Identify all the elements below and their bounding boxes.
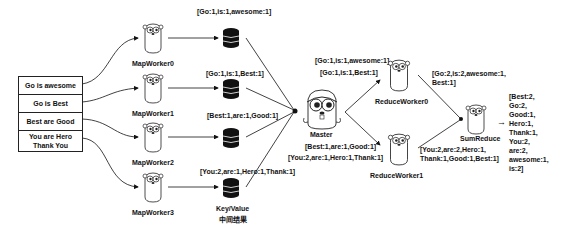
map-worker-label: MapWorker3 xyxy=(132,209,174,216)
reduce-worker-label: ReduceWorker1 xyxy=(370,172,423,179)
reduce-output: Best:1] xyxy=(432,79,456,86)
result-line: Go:2, xyxy=(509,101,549,110)
reduce-output: [Go:2,is:2,awesome:1, xyxy=(432,70,506,77)
master-gopher-icon xyxy=(300,88,344,130)
reduce-worker-label: ReduceWorker0 xyxy=(375,98,428,105)
storage-label-cn: 中间结果 xyxy=(219,214,247,224)
input-row: Go is awesome xyxy=(19,77,82,95)
reduce-input: [You:2,are:1,Hero:1,Thank:1] xyxy=(288,154,383,161)
gopher-icon xyxy=(385,132,413,166)
gopher-icon xyxy=(140,72,166,104)
result-line: are:2, xyxy=(509,146,549,155)
gopher-icon xyxy=(463,103,489,135)
arrow-right-icon: → xyxy=(497,117,506,127)
reduce-output: [You:2,are:2,Hero:1, xyxy=(420,146,486,153)
map-worker-label: MapWorker2 xyxy=(132,159,174,166)
input-row: Go is Best xyxy=(19,95,82,113)
database-icon xyxy=(222,79,240,99)
kv-output: [Go:1,is:1,Best:1] xyxy=(206,70,264,77)
result-line: You:2, xyxy=(509,137,549,146)
map-worker-label: MapWorker0 xyxy=(132,60,174,67)
input-documents-table: Go is awesome Go is Best Best are Good Y… xyxy=(18,76,83,152)
final-result: [Best:2, Go:2, Good:1, Hero:1, Thank:1, … xyxy=(509,92,549,173)
kv-output: [Best:1,are:1,Good:1] xyxy=(207,112,278,119)
storage-label: Key/Value xyxy=(216,205,249,212)
result-line: awesome:1, xyxy=(509,155,549,164)
gopher-icon xyxy=(140,121,166,153)
database-icon xyxy=(222,128,240,148)
gopher-icon xyxy=(140,22,166,54)
result-line: Good:1, xyxy=(509,110,549,119)
gopher-icon xyxy=(140,171,166,203)
map-worker-label: MapWorker1 xyxy=(132,110,174,117)
master-label: Master xyxy=(310,131,333,138)
kv-output: [You:2,are:1,Hero:1,Thank:1] xyxy=(200,168,295,175)
mapreduce-diagram: Go is awesome Go is Best Best are Good Y… xyxy=(0,0,563,235)
sum-reduce-label: SumReduce xyxy=(460,135,500,142)
reduce-output: Thank:1,Good:1,Best:1] xyxy=(420,155,499,162)
input-row: Best are Good xyxy=(19,113,82,131)
kv-output: [Go:1,is:1,awesome:1] xyxy=(197,8,271,15)
database-icon xyxy=(222,178,240,198)
reduce-input: [Go:1,is:1,Best:1] xyxy=(320,69,378,76)
gopher-icon xyxy=(385,58,413,92)
reduce-input: [Go:1,is:1,awesome:1] xyxy=(315,57,389,64)
result-line: Thank:1, xyxy=(509,128,549,137)
result-line: [Best:2, xyxy=(509,92,549,101)
result-line: Hero:1, xyxy=(509,119,549,128)
reduce-input: [Best:1,are:1,Good:1] xyxy=(305,143,376,150)
result-line: is:2] xyxy=(509,164,549,173)
input-row: You are Hero Thank You xyxy=(19,131,82,151)
database-icon xyxy=(222,28,240,48)
